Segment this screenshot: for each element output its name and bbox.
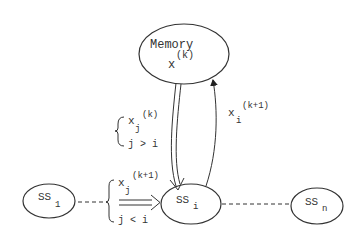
brace-icon <box>115 117 124 146</box>
ssi-label: SS <box>176 194 190 206</box>
svg-text:(k+1): (k+1) <box>242 101 269 111</box>
ssi-node: SS i <box>161 184 221 224</box>
memory-to-ssi-arrow <box>170 83 184 190</box>
svg-text:j: j <box>135 124 140 134</box>
ss1-to-ssi-label: x j (k+1) j < i <box>106 171 159 226</box>
svg-text:(k+1): (k+1) <box>132 171 159 181</box>
ssi-to-memory-label: x i (k+1) <box>228 101 269 126</box>
svg-text:x: x <box>128 115 135 127</box>
brace-icon <box>106 180 114 222</box>
ss1-sub: 1 <box>55 200 60 210</box>
diagram-canvas: Memory x (k) SS 1 SS i SS n x j <box>0 0 360 244</box>
ss1-label: SS <box>38 191 52 203</box>
svg-text:j > i: j > i <box>128 139 158 150</box>
memory-node: Memory x (k) <box>139 24 229 84</box>
svg-text:i: i <box>236 116 241 126</box>
ssi-sub: i <box>193 202 198 212</box>
svg-text:x: x <box>228 107 235 119</box>
memory-to-ssi-label: x j (k) j > i <box>115 110 158 150</box>
svg-text:j < i: j < i <box>118 215 148 226</box>
ssn-node: SS n <box>291 188 343 224</box>
ss1-node: SS 1 <box>23 184 75 218</box>
svg-text:x: x <box>118 177 125 189</box>
memory-sup: (k) <box>176 50 194 61</box>
memory-var: x <box>168 58 175 72</box>
ssn-sub: n <box>322 204 327 214</box>
svg-text:(k): (k) <box>142 110 158 120</box>
svg-text:j: j <box>125 186 130 196</box>
ssn-label: SS <box>305 196 319 208</box>
ss1-to-ssi-arrow <box>119 195 160 210</box>
ssi-to-memory-arrow <box>206 80 216 186</box>
